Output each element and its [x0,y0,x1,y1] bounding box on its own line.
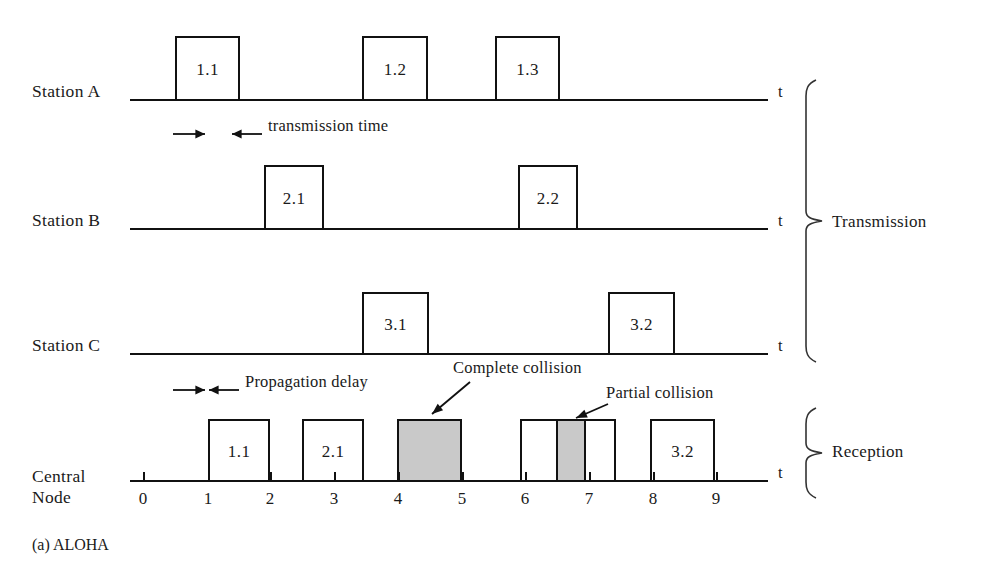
pulse-label-station-b-1: 2.2 [537,189,560,209]
axis-tick-7 [589,472,591,482]
axis-tick-label-9: 9 [712,489,721,509]
figure-caption: (a) ALOHA [32,536,109,554]
bracket-label-reception: Reception [832,442,904,462]
arrow-line-complete-collision [432,382,470,414]
pulse-label-station-b-0: 2.1 [283,189,306,209]
pulse-label-central-node-1: 2.1 [322,442,345,462]
pulse-label-central-node-0: 1.1 [228,442,251,462]
axis-tick-6 [525,472,527,482]
pulse-label-station-a-1: 1.2 [384,60,407,80]
arrow-line-partial-collision [576,404,608,418]
axis-tick-8 [653,472,655,482]
axis-tick-1 [208,472,210,482]
axis-tick-label-4: 4 [394,489,403,509]
row-label-station-a: Station A [32,81,100,102]
arrow-head [232,130,242,139]
axis-tick-3 [334,472,336,482]
row-label-station-b: Station B [32,210,100,231]
axis-tick-4 [398,472,400,482]
baseline-station-b [130,228,768,230]
annotation-complete-collision: Complete collision [453,358,582,378]
axis-tick-label-8: 8 [649,489,658,509]
axis-tick-2 [270,472,272,482]
arrow-head [195,386,205,395]
annotation-propagation-delay: Propagation delay [245,372,368,392]
pulse-label-central-node-6: 3.2 [671,442,694,462]
time-axis-label-station-b: t [778,211,783,231]
axis-tick-5 [462,472,464,482]
annotation-partial-collision: Partial collision [606,383,713,403]
pulse-central-node-4 [556,419,586,482]
pulse-central-node-2 [397,419,462,482]
arrows-and-brackets-svg [0,0,983,585]
axis-tick-label-7: 7 [585,489,594,509]
pulse-label-station-c-0: 3.1 [384,315,407,335]
arrow-head-partial-collision [576,410,588,418]
bracket-label-transmission: Transmission [832,212,927,232]
arrow-head [195,130,205,139]
time-axis-label-station-a: t [778,82,783,102]
row-label-central-node-line2: Node [32,487,71,508]
bracket-reception [806,408,822,498]
axis-tick-label-3: 3 [330,489,339,509]
bracket-transmission [806,80,822,362]
arrow-head [209,386,219,395]
axis-tick-label-6: 6 [521,489,530,509]
aloha-timing-diagram: Station At1.11.21.3Station Bt2.12.2Stati… [0,0,983,585]
pulse-label-station-a-0: 1.1 [196,60,219,80]
arrow-head-complete-collision [432,404,443,414]
axis-tick-label-0: 0 [139,489,148,509]
row-label-station-c: Station C [32,335,100,356]
axis-tick-label-5: 5 [458,489,467,509]
row-label-central-node: Central [32,466,86,487]
axis-tick-0 [143,472,145,482]
annotation-transmission-time: transmission time [268,116,388,136]
pulse-label-station-c-1: 3.2 [630,315,653,335]
time-axis-label-central-node: t [778,463,783,483]
pulse-label-station-a-2: 1.3 [516,60,539,80]
axis-tick-label-1: 1 [204,489,213,509]
axis-tick-label-2: 2 [266,489,275,509]
axis-tick-9 [716,472,718,482]
time-axis-label-station-c: t [778,336,783,356]
